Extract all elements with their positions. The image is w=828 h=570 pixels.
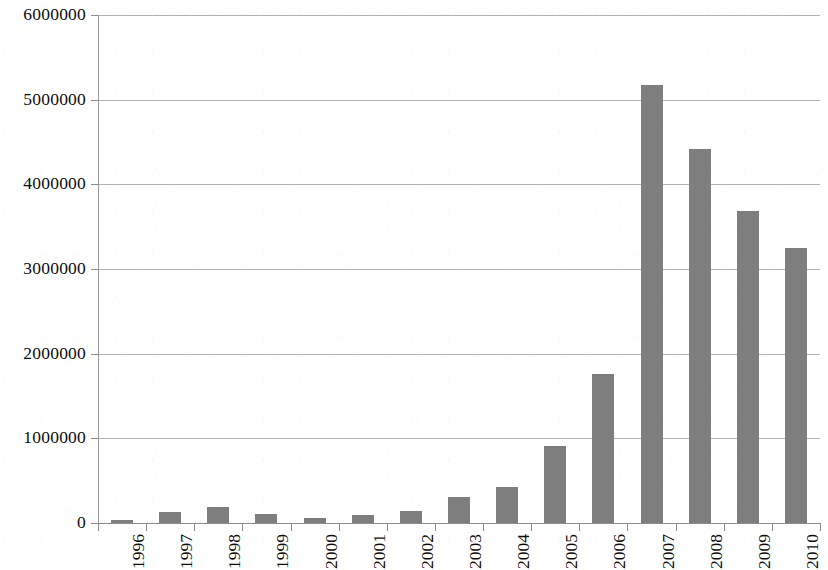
bar — [159, 512, 181, 523]
x-tick — [531, 523, 532, 531]
bar-chart: 0100000020000003000000400000050000006000… — [0, 0, 828, 570]
y-tick — [91, 523, 98, 524]
x-axis-tick-label: 2001 — [371, 534, 389, 569]
bar — [641, 85, 663, 523]
y-axis-tick-label: 5000000 — [0, 91, 86, 109]
x-axis-tick-label: 2008 — [708, 534, 726, 569]
y-tick — [91, 438, 98, 439]
x-tick — [772, 523, 773, 531]
y-axis-tick-label: 4000000 — [0, 175, 86, 193]
x-axis-tick-label: 2000 — [323, 534, 341, 569]
x-axis-tick-label: 2010 — [804, 534, 822, 569]
y-axis-line — [98, 15, 99, 523]
y-tick — [91, 269, 98, 270]
x-axis-tick-label: 2007 — [660, 534, 678, 569]
bar — [592, 374, 614, 523]
bar — [544, 446, 566, 523]
x-tick — [724, 523, 725, 531]
x-tick — [627, 523, 628, 531]
x-axis-tick-label: 1998 — [226, 534, 244, 569]
x-tick — [579, 523, 580, 531]
y-tick — [91, 15, 98, 16]
bar — [689, 149, 711, 523]
x-axis-tick-label: 1999 — [274, 534, 292, 569]
x-tick — [194, 523, 195, 531]
y-axis-tick-label: 6000000 — [0, 6, 86, 24]
x-tick — [291, 523, 292, 531]
bar — [737, 211, 759, 523]
y-tick — [91, 354, 98, 355]
y-axis-tick-label: 2000000 — [0, 345, 86, 363]
bar — [207, 507, 229, 523]
x-tick — [387, 523, 388, 531]
x-axis-tick-label: 1996 — [130, 534, 148, 569]
x-axis-tick-label: 2004 — [515, 534, 533, 569]
x-axis-tick-label: 1997 — [178, 534, 196, 569]
y-tick — [91, 184, 98, 185]
bar — [255, 514, 277, 523]
x-axis-line — [98, 523, 820, 524]
x-axis-tick-label: 2009 — [756, 534, 774, 569]
bar — [400, 511, 422, 523]
x-tick — [242, 523, 243, 531]
y-axis-tick-label: 1000000 — [0, 429, 86, 447]
y-axis-labels: 0100000020000003000000400000050000006000… — [0, 0, 86, 570]
x-tick — [435, 523, 436, 531]
x-tick — [146, 523, 147, 531]
x-tick — [820, 523, 821, 531]
y-tick — [91, 100, 98, 101]
x-axis-tick-label: 2005 — [563, 534, 581, 569]
x-axis-tick-label: 2003 — [467, 534, 485, 569]
x-tick — [98, 523, 99, 531]
y-axis-tick-label: 0 — [0, 514, 86, 532]
x-tick — [483, 523, 484, 531]
y-axis-tick-label: 3000000 — [0, 260, 86, 278]
bar — [352, 515, 374, 523]
x-axis-tick-label: 2002 — [419, 534, 437, 569]
bar-series — [98, 15, 820, 523]
bar — [785, 248, 807, 523]
x-tick — [339, 523, 340, 531]
bar — [448, 497, 470, 523]
x-axis-tick-label: 2006 — [611, 534, 629, 569]
x-tick — [676, 523, 677, 531]
bar — [496, 487, 518, 523]
